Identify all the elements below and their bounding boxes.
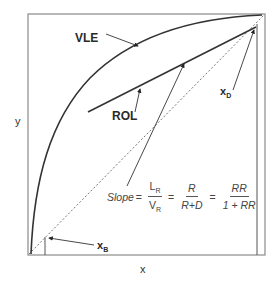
rol-label: ROL [112,110,137,122]
fraction-rr-numerator: RR [230,182,249,197]
x-axis-label: x [140,264,146,275]
y-axis-label: y [15,116,21,127]
fraction-vr-denominator: VR [147,197,163,213]
fraction-r-numerator: R [186,182,198,197]
equals-sign-2: = [168,191,174,203]
xd-label: xD [220,86,231,99]
equals-sign-3: = [210,191,216,203]
xb-label-sub: B [103,246,108,253]
diagonal-line [29,15,264,254]
fraction-rr-denominator: 1 + RR [221,197,258,211]
slope-word: Slope [107,191,134,203]
slope-formula: Slope = LR VR = R R+D = RR 1 + RR [107,180,261,213]
fraction-lr-vr: LR VR [147,180,163,213]
diagram-canvas [0,0,279,282]
vle-pointer-arrow [106,34,138,46]
fraction-r-rd: R R+D [179,182,204,211]
vr-sub: R [156,206,161,213]
fraction-rr: RR 1 + RR [221,182,258,211]
fraction-rd-denominator: R+D [179,197,204,211]
rol-line [88,27,256,112]
equals-sign-1: = [136,191,142,203]
xd-label-sub: D [226,92,231,99]
vr-main: V [149,199,156,211]
xd-pointer-arrow [233,30,254,90]
slope-pointer-arrow [127,64,184,186]
xb-label: xB [97,240,108,253]
fraction-lr-numerator: LR [148,180,163,197]
vle-curve [31,15,262,254]
lr-sub: R [155,187,160,194]
xb-pointer-arrow [49,238,94,245]
vle-label: VLE [75,32,98,44]
